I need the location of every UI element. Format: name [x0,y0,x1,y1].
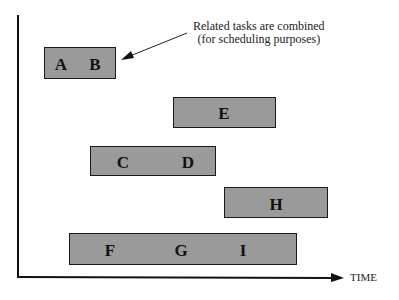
task-label-i: I [240,242,247,259]
x-axis [17,277,333,278]
task-label-f: F [105,242,115,259]
task-label-a: A [55,56,67,73]
task-box-cd [90,146,216,176]
annotation: Related tasks are combined (for scheduli… [193,20,325,46]
task-label-h: H [269,196,282,213]
callout-arrowhead-icon [121,51,134,60]
task-label-d: D [182,154,194,171]
task-label-e: E [218,105,229,122]
task-label-g: G [174,242,187,259]
x-axis-label: TIME [350,271,377,283]
x-axis-arrowhead-icon [331,273,344,282]
callout-line [130,33,187,56]
task-label-b: B [89,56,100,73]
task-label-c: C [117,154,129,171]
annotation-line2: (for scheduling purposes) [193,33,325,46]
